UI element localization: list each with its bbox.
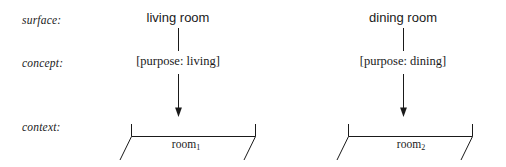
bracket-dining-context-right-slash (461, 137, 473, 161)
arrowhead-dining-concept-to-context (400, 108, 407, 118)
bracket-living-context-left-slash (120, 137, 132, 161)
concept-text-living: [purpose: living] (136, 54, 220, 69)
bracket-dining-context-span (349, 124, 473, 137)
arrowhead-living-concept-to-context (175, 108, 182, 118)
bracket-dining-context-left-slash (337, 137, 349, 161)
context-text-dining-base: room (397, 138, 421, 150)
context-text-living: room1 (172, 138, 200, 150)
context-text-living-base: room (172, 138, 196, 150)
context-text-dining: room2 (397, 138, 425, 150)
row-label-concept: concept: (22, 57, 63, 69)
diagram-vector-layer (0, 0, 506, 167)
context-text-living-subscript: 1 (196, 143, 200, 152)
row-label-surface: surface: (22, 14, 61, 26)
bracket-living-context-span (132, 124, 256, 137)
surface-text-dining: dining room (369, 10, 437, 25)
bracket-living-context-right-slash (244, 137, 256, 161)
concept-text-dining: [purpose: dining] (360, 54, 446, 69)
diagram-canvas: surface: concept: context: living room [… (0, 0, 506, 167)
surface-text-living: living room (147, 10, 210, 25)
row-label-context: context: (22, 121, 61, 133)
context-text-dining-subscript: 2 (421, 143, 425, 152)
